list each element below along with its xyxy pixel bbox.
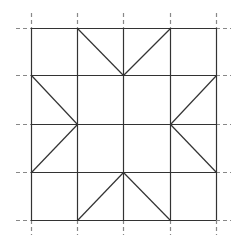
diagonal-line — [124, 29, 171, 76]
diagonal-line — [32, 125, 78, 173]
diagonal-line — [124, 173, 171, 221]
diagonal-line — [171, 76, 217, 125]
diagonal-line — [171, 125, 217, 173]
grid-lines — [31, 28, 217, 221]
diagonal-line — [32, 76, 78, 125]
diagonal-line — [78, 29, 124, 76]
diagonal-line — [78, 173, 124, 221]
quilt-grid-diagram — [0, 0, 242, 244]
